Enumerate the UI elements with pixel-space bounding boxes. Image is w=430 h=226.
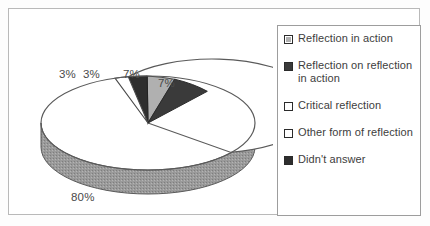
legend-item-critical-reflection: Critical reflection <box>284 99 416 112</box>
legend-swatch-icon <box>284 156 293 165</box>
pie-label-80-percent: 80% <box>71 191 95 203</box>
pie-label-7-percent-a: 7% <box>123 68 140 80</box>
pie-chart-svg <box>23 23 273 218</box>
legend-item-label: Reflection on reflection in action <box>298 59 416 85</box>
legend-item-other-form-of-reflection: Other form of reflection <box>284 126 416 139</box>
legend-item-label: Reflection in action <box>298 32 393 45</box>
legend-item-reflection-on-reflection-in-action: Reflection on reflection in action <box>284 59 416 85</box>
legend-item-didnt-answer: Didn't answer <box>284 153 416 166</box>
legend: Reflection in action Reflection on refle… <box>277 25 421 216</box>
screenshot-root: 7% 7% 3% 3% 80% Reflection in action Ref… <box>0 0 430 226</box>
legend-list: Reflection in action Reflection on refle… <box>284 32 416 211</box>
legend-item-reflection-in-action: Reflection in action <box>284 32 416 45</box>
legend-swatch-icon <box>284 129 293 138</box>
legend-item-label: Other form of reflection <box>298 126 413 139</box>
legend-swatch-icon <box>284 102 293 111</box>
pie-label-7-percent-b: 7% <box>158 77 175 89</box>
legend-item-label: Didn't answer <box>298 153 366 166</box>
legend-swatch-icon <box>284 62 293 71</box>
pie-label-3-percent-a: 3% <box>83 68 100 80</box>
pie-label-3-percent-b: 3% <box>59 68 76 80</box>
pie-chart: 7% 7% 3% 3% 80% <box>23 23 273 218</box>
legend-item-label: Critical reflection <box>298 99 381 112</box>
figure-frame: 7% 7% 3% 3% 80% Reflection in action Ref… <box>8 8 420 215</box>
legend-swatch-icon <box>284 35 293 44</box>
